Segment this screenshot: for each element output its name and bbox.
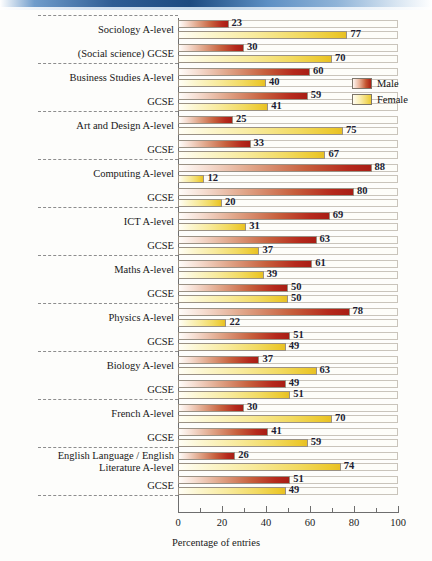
x-tick-major [310, 506, 311, 512]
bar-value-label-male: 61 [315, 258, 326, 268]
category-label-line: GCSE [0, 288, 174, 300]
bar-female [178, 79, 266, 87]
legend-swatch-female-icon [352, 94, 372, 105]
category-label-line: ICT A-level [0, 216, 174, 228]
bar-value-label-male: 41 [271, 426, 282, 436]
bar-female [178, 223, 246, 231]
bar-value-label-male: 37 [262, 354, 273, 364]
x-tick-minor [376, 508, 377, 512]
scan-band-top-fade [0, 7, 432, 10]
category-label: Biology A-level [0, 360, 174, 372]
bar-value-label-female: 67 [328, 149, 339, 159]
bar-value-label-male: 30 [247, 402, 258, 412]
legend-label-male: Male [377, 78, 399, 89]
category-label-line: Biology A-level [0, 360, 174, 372]
bar-value-label-male: 80 [357, 186, 368, 196]
group-separator [38, 399, 178, 400]
bar-male [178, 212, 330, 220]
x-tick-major [222, 506, 223, 512]
bar-value-label-male: 33 [254, 138, 265, 148]
bar-value-label-male: 51 [293, 474, 304, 484]
x-tick-label: 20 [202, 517, 242, 528]
group-separator [38, 303, 178, 304]
bar-male [178, 92, 308, 100]
bar-female [178, 463, 341, 471]
bar-value-label-male: 69 [333, 210, 344, 220]
bar-value-label-female: 63 [320, 365, 331, 375]
bar-value-label-male: 59 [311, 90, 322, 100]
bar-male [178, 452, 235, 460]
category-label: GCSE [0, 192, 174, 204]
bar-male [178, 404, 244, 412]
x-tick-major [354, 506, 355, 512]
group-separator [38, 255, 178, 256]
category-label-line: Art and Design A-level [0, 120, 174, 132]
x-axis-line [178, 512, 399, 513]
bar-female [178, 199, 222, 207]
bar-female [178, 487, 286, 495]
category-label: GCSE [0, 336, 174, 348]
x-tick-minor [200, 508, 201, 512]
category-label-line: GCSE [0, 384, 174, 396]
bar-female [178, 55, 332, 63]
category-label-line: Sociology A-level [0, 24, 174, 36]
category-label-line: GCSE [0, 336, 174, 348]
category-label-line: English Language / English [0, 450, 174, 462]
category-label: Maths A-level [0, 264, 174, 276]
category-label-line: GCSE [0, 432, 174, 444]
bar-value-label-female: 59 [311, 437, 322, 447]
x-tick-minor [288, 508, 289, 512]
scan-band-top [0, 0, 432, 7]
bar-value-label-female: 77 [350, 29, 361, 39]
chart-legend: Male Female [352, 78, 408, 110]
bar-value-label-female: 74 [344, 461, 355, 471]
category-label-line: (Social science) GCSE [0, 48, 174, 60]
category-label: GCSE [0, 240, 174, 252]
bar-value-label-female: 75 [346, 125, 357, 135]
category-label: GCSE [0, 288, 174, 300]
category-label: (Social science) GCSE [0, 48, 174, 60]
bar-value-label-female: 12 [207, 173, 218, 183]
bar-value-label-female: 37 [262, 245, 273, 255]
bar-male [178, 380, 286, 388]
bar-male [178, 428, 268, 436]
legend-swatch-male-icon [352, 78, 372, 89]
x-tick-label: 100 [378, 517, 418, 528]
chart-root: 2377307060405941257533678812802069316337… [0, 0, 432, 561]
category-label-line: GCSE [0, 96, 174, 108]
x-tick-label: 60 [290, 517, 330, 528]
group-separator [38, 207, 178, 208]
x-tick-major [178, 506, 179, 512]
bar-value-label-male: 23 [232, 18, 243, 28]
bar-female [178, 31, 347, 39]
category-label-line: GCSE [0, 144, 174, 156]
category-label: Computing A-level [0, 168, 174, 180]
category-label-line: GCSE [0, 240, 174, 252]
bar-female [178, 127, 343, 135]
bar-value-label-male: 51 [293, 330, 304, 340]
group-separator [38, 63, 178, 64]
category-label: ICT A-level [0, 216, 174, 228]
group-separator [38, 15, 178, 16]
bar-value-label-male: 25 [236, 114, 247, 124]
category-label-line: French A-level [0, 408, 174, 420]
category-label-line: Maths A-level [0, 264, 174, 276]
category-label: GCSE [0, 144, 174, 156]
bar-male [178, 332, 290, 340]
x-tick-label: 0 [158, 517, 198, 528]
bar-male [178, 164, 372, 172]
x-tick-major [398, 506, 399, 512]
bar-value-label-male: 30 [247, 42, 258, 52]
bar-male [178, 116, 233, 124]
bar-value-label-female: 20 [225, 197, 236, 207]
category-label-line: GCSE [0, 480, 174, 492]
bar-value-label-male: 49 [289, 378, 300, 388]
bar-male [178, 476, 290, 484]
legend-label-female: Female [377, 94, 408, 105]
bar-value-label-male: 60 [313, 66, 324, 76]
legend-item-male: Male [352, 78, 408, 89]
bar-female [178, 319, 226, 327]
category-label: GCSE [0, 96, 174, 108]
category-label: English Language / EnglishLiterature A-l… [0, 450, 174, 474]
bar-female [178, 151, 325, 159]
